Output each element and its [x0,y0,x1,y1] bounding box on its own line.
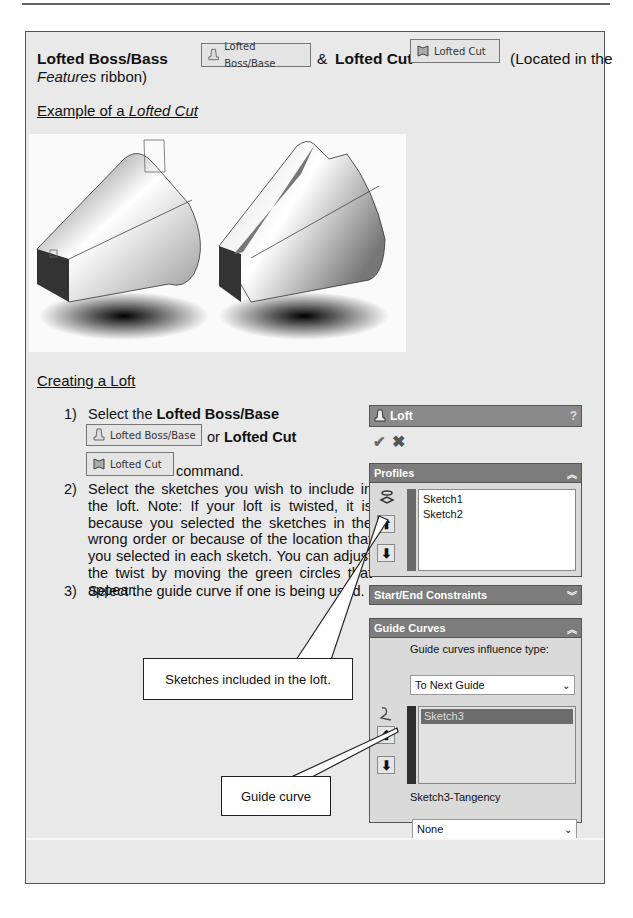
info-box: Lofted Boss/Bass Lofted Boss/Base & Loft… [25,31,605,884]
guide-curve-callout: Guide curve [221,776,331,816]
sketches-callout: Sketches included in the loft. [143,658,353,700]
callout-leaders [26,32,606,885]
divider [26,838,604,840]
page-top-rule [22,3,610,5]
